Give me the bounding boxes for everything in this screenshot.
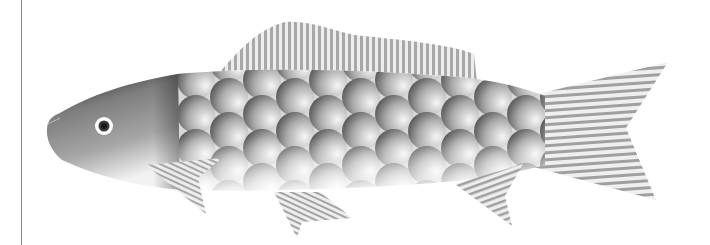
body-scales — [170, 44, 578, 235]
pelvic-fin — [274, 192, 352, 238]
eye — [95, 117, 113, 135]
tail-fin — [530, 62, 668, 200]
fish-illustration — [0, 0, 710, 245]
